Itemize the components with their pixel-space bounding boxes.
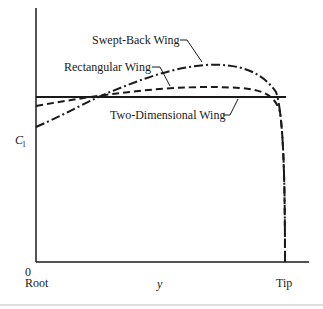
y-axis-label-sub: l bbox=[23, 140, 25, 149]
annotation-rectangular-wing: Rectangular Wing bbox=[64, 61, 151, 73]
annotation-swept-back-wing: Swept-Back Wing bbox=[92, 34, 180, 46]
annotation-two-dimensional-wing: Two-Dimensional Wing bbox=[110, 109, 225, 121]
x-axis-label: y bbox=[157, 278, 162, 290]
series-swept-back-wing bbox=[36, 65, 285, 262]
tip-tick: Tip bbox=[276, 277, 292, 289]
y-axis-label: Cl bbox=[15, 134, 25, 149]
leader-swept-back bbox=[180, 40, 202, 62]
leader-rectangular bbox=[152, 67, 170, 86]
y-axis-label-main: C bbox=[15, 133, 23, 147]
root-tick: Root bbox=[25, 277, 48, 289]
